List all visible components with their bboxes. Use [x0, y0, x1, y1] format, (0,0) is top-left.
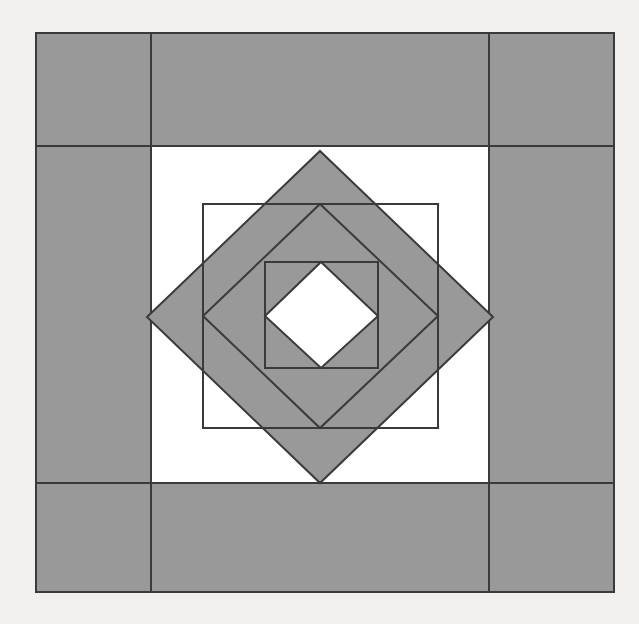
figure-stage: [0, 0, 639, 624]
quilt-block-figure: [0, 0, 639, 624]
